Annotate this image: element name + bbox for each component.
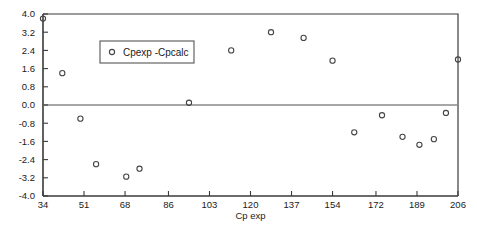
y-tick-label: -1.6 (19, 136, 35, 147)
scatter-plot-svg: 4.03.22.41.60.80.0-0.8-1.6-2.4-3.2-4.0 3… (0, 0, 477, 233)
y-tick-label: 3.2 (22, 27, 35, 38)
y-tick-label: -3.2 (19, 172, 35, 183)
y-tick-label: 0.8 (22, 81, 35, 92)
y-tick-label: -2.4 (19, 154, 35, 165)
x-tick-label: 120 (243, 199, 259, 210)
y-tick-label: 2.4 (22, 45, 35, 56)
x-axis-tick-labels: 34516886103120137154172189206 (38, 199, 466, 210)
x-tick-label: 51 (79, 199, 90, 210)
y-tick-label: -4.0 (19, 190, 35, 201)
chart-container: 4.03.22.41.60.80.0-0.8-1.6-2.4-3.2-4.0 3… (0, 0, 477, 233)
x-tick-label: 86 (163, 199, 174, 210)
x-tick-label: 154 (325, 199, 341, 210)
legend-entry-label: Cpexp -Cpcalc (123, 47, 189, 58)
y-axis-tick-labels: 4.03.22.41.60.80.0-0.8-1.6-2.4-3.2-4.0 (19, 8, 35, 201)
legend: Cpexp -Cpcalc (100, 41, 194, 63)
y-tick-label: -0.8 (19, 118, 35, 129)
x-tick-label: 189 (409, 199, 425, 210)
x-axis-title: Cp exp (235, 210, 265, 221)
x-tick-label: 206 (450, 199, 466, 210)
x-tick-label: 172 (368, 199, 384, 210)
y-tick-label: 1.6 (22, 63, 35, 74)
x-tick-label: 137 (284, 199, 300, 210)
x-tick-label: 68 (120, 199, 131, 210)
y-tick-label: 0.0 (22, 99, 35, 110)
x-tick-label: 103 (202, 199, 218, 210)
y-tick-label: 4.0 (22, 8, 35, 19)
x-tick-label: 34 (38, 199, 49, 210)
